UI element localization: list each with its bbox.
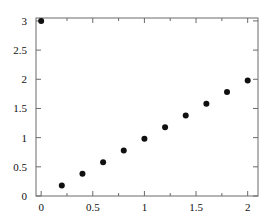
plot-canvas	[0, 0, 276, 223]
x-tick-label: 1	[142, 202, 148, 213]
scatter-plot-figure: 00.511.522.53 00.511.52	[0, 0, 276, 223]
data-point-marker	[121, 147, 127, 153]
x-tick-label: 0.5	[86, 202, 100, 213]
y-tick-label: 0.5	[0, 161, 27, 172]
data-point-marker	[38, 18, 44, 24]
y-tick-label: 0	[0, 191, 27, 202]
data-point-marker	[224, 89, 230, 95]
y-tick-label: 2.5	[0, 45, 27, 56]
x-tick-label: 2	[245, 202, 251, 213]
plot-border	[36, 18, 258, 196]
tick-marks	[36, 18, 258, 196]
y-tick-label: 2	[0, 74, 27, 85]
axes-frame	[36, 18, 258, 196]
data-point-marker	[245, 77, 251, 83]
data-point-markers	[38, 18, 251, 189]
x-tick-label: 0	[38, 202, 44, 213]
data-point-marker	[203, 101, 209, 107]
y-tick-label: 3	[0, 15, 27, 26]
data-point-marker	[141, 136, 147, 142]
data-point-marker	[100, 159, 106, 165]
data-point-marker	[183, 112, 189, 118]
data-point-marker	[79, 171, 85, 177]
x-tick-label: 1.5	[189, 202, 203, 213]
y-tick-label: 1.5	[0, 103, 27, 114]
data-point-marker	[162, 124, 168, 130]
y-tick-label: 1	[0, 132, 27, 143]
data-point-marker	[59, 182, 65, 188]
